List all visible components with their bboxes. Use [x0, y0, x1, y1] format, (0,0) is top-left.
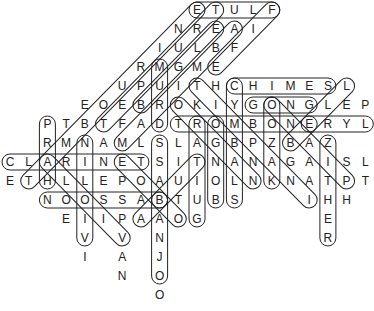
grid-letter[interactable]: A — [226, 154, 242, 170]
grid-letter[interactable]: T — [58, 116, 74, 132]
grid-letter[interactable]: N — [114, 268, 130, 284]
grid-letter[interactable]: L — [170, 135, 186, 151]
grid-letter[interactable]: R — [189, 21, 205, 37]
grid-letter[interactable]: B — [283, 135, 299, 151]
grid-letter[interactable]: I — [301, 192, 317, 208]
grid-letter[interactable]: O — [58, 192, 74, 208]
grid-letter[interactable]: U — [114, 78, 130, 94]
grid-letter[interactable]: G — [283, 154, 299, 170]
grid-letter[interactable]: N — [245, 154, 261, 170]
grid-letter[interactable]: L — [58, 173, 74, 189]
grid-letter[interactable]: O — [152, 287, 168, 303]
grid-letter[interactable]: A — [301, 154, 317, 170]
grid-letter[interactable]: F — [226, 40, 242, 56]
grid-letter[interactable]: U — [152, 78, 168, 94]
grid-letter[interactable]: A — [189, 135, 205, 151]
grid-letter[interactable]: I — [264, 78, 280, 94]
grid-letter[interactable]: C — [226, 78, 242, 94]
grid-letter[interactable]: T — [133, 154, 149, 170]
grid-letter[interactable]: T — [21, 173, 37, 189]
grid-letter[interactable]: P — [245, 135, 261, 151]
grid-letter[interactable]: E — [189, 2, 205, 18]
grid-letter[interactable]: I — [77, 249, 93, 265]
grid-letter[interactable]: N — [283, 116, 299, 132]
grid-letter[interactable]: O — [264, 116, 280, 132]
grid-letter[interactable]: O — [170, 97, 186, 113]
grid-letter[interactable]: J — [152, 249, 168, 265]
grid-letter[interactable]: L — [357, 154, 373, 170]
grid-letter[interactable]: G — [301, 97, 317, 113]
grid-letter[interactable]: L — [357, 116, 373, 132]
grid-letter[interactable]: T — [189, 154, 205, 170]
grid-letter[interactable]: T — [320, 173, 336, 189]
grid-letter[interactable]: L — [133, 135, 149, 151]
grid-letter[interactable]: N — [170, 21, 186, 37]
grid-letter[interactable]: A — [226, 21, 242, 37]
grid-letter[interactable]: L — [189, 40, 205, 56]
grid-letter[interactable]: S — [320, 78, 336, 94]
grid-letter[interactable]: E — [339, 97, 355, 113]
grid-letter[interactable]: O — [264, 97, 280, 113]
grid-letter[interactable]: A — [301, 173, 317, 189]
grid-letter[interactable]: I — [208, 97, 224, 113]
grid-letter[interactable]: Y — [226, 97, 242, 113]
grid-letter[interactable]: A — [301, 135, 317, 151]
grid-letter[interactable]: Z — [320, 135, 336, 151]
grid-letter[interactable]: E — [96, 173, 112, 189]
grid-letter[interactable]: P — [114, 173, 130, 189]
grid-letter[interactable]: L — [226, 173, 242, 189]
grid-letter[interactable]: U — [170, 40, 186, 56]
grid-letter[interactable]: O — [208, 116, 224, 132]
grid-letter[interactable]: P — [133, 78, 149, 94]
grid-letter[interactable]: O — [170, 211, 186, 227]
grid-letter[interactable]: T — [208, 2, 224, 18]
grid-letter[interactable]: O — [96, 97, 112, 113]
grid-letter[interactable]: F — [114, 116, 130, 132]
grid-letter[interactable]: U — [226, 2, 242, 18]
grid-letter[interactable]: E — [77, 97, 93, 113]
grid-letter[interactable]: N — [283, 173, 299, 189]
grid-letter[interactable]: S — [96, 192, 112, 208]
grid-letter[interactable]: L — [77, 173, 93, 189]
grid-letter[interactable]: E — [114, 154, 130, 170]
grid-letter[interactable]: E — [208, 21, 224, 37]
grid-letter[interactable]: M — [58, 135, 74, 151]
grid-letter[interactable]: A — [264, 154, 280, 170]
grid-letter[interactable]: S — [152, 154, 168, 170]
grid-letter[interactable]: A — [133, 116, 149, 132]
grid-letter[interactable]: O — [208, 173, 224, 189]
grid-letter[interactable]: O — [152, 268, 168, 284]
grid-letter[interactable]: B — [208, 40, 224, 56]
grid-letter[interactable]: I — [170, 78, 186, 94]
grid-letter[interactable]: A — [96, 135, 112, 151]
grid-letter[interactable]: A — [152, 211, 168, 227]
grid-letter[interactable]: R — [152, 97, 168, 113]
grid-letter[interactable]: S — [339, 154, 355, 170]
grid-letter[interactable]: M — [189, 59, 205, 75]
grid-letter[interactable]: T — [189, 78, 205, 94]
grid-letter[interactable]: N — [208, 154, 224, 170]
grid-letter[interactable]: A — [152, 173, 168, 189]
grid-letter[interactable]: T — [170, 192, 186, 208]
grid-letter[interactable]: E — [2, 173, 18, 189]
grid-letter[interactable]: G — [170, 59, 186, 75]
grid-letter[interactable]: M — [226, 116, 242, 132]
grid-letter[interactable]: Z — [264, 135, 280, 151]
grid-letter[interactable]: N — [283, 97, 299, 113]
grid-letter[interactable]: B — [133, 97, 149, 113]
grid-letter[interactable]: E — [208, 59, 224, 75]
grid-letter[interactable]: O — [77, 192, 93, 208]
grid-letter[interactable]: V — [114, 230, 130, 246]
grid-letter[interactable]: S — [114, 192, 130, 208]
grid-letter[interactable]: A — [133, 192, 149, 208]
grid-letter[interactable]: R — [133, 59, 149, 75]
grid-letter[interactable]: I — [96, 211, 112, 227]
grid-letter[interactable]: I — [170, 154, 186, 170]
grid-letter[interactable]: L — [245, 2, 261, 18]
grid-letter[interactable]: E — [114, 97, 130, 113]
grid-letter[interactable]: T — [170, 116, 186, 132]
grid-letter[interactable]: N — [77, 135, 93, 151]
grid-letter[interactable]: B — [208, 192, 224, 208]
grid-letter[interactable]: A — [114, 249, 130, 265]
grid-letter[interactable]: U — [170, 173, 186, 189]
